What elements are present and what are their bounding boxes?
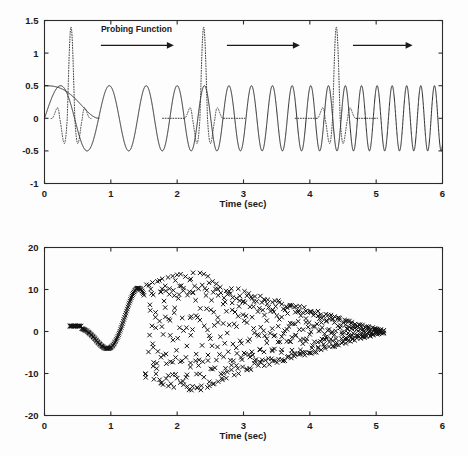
scatter-marker [175, 348, 179, 352]
bottom-y-tick-labels: -20-1001020 [25, 242, 39, 421]
top-plot-area [45, 21, 443, 184]
scatter-marker [185, 326, 189, 330]
scatter-marker [218, 335, 222, 339]
scatter-marker [235, 352, 239, 356]
scatter-marker [191, 384, 195, 388]
scatter-marker [236, 287, 240, 291]
scatter-marker [298, 338, 302, 342]
bottom-x-tick-label: 2 [175, 420, 180, 431]
scatter-marker [197, 287, 201, 291]
scatter-marker [191, 291, 195, 295]
scatter-marker [237, 304, 241, 308]
scatter-marker [327, 328, 331, 332]
scatter-marker [198, 318, 202, 322]
scatter-marker [306, 325, 310, 329]
scatter-marker [279, 351, 283, 355]
scatter-marker [184, 355, 188, 359]
scatter-marker [270, 327, 274, 331]
scatter-marker [155, 367, 159, 371]
scatter-marker [202, 375, 206, 379]
scatter-marker [259, 325, 263, 329]
scatter-marker [290, 348, 294, 352]
scatter-marker [144, 376, 148, 380]
scatter-marker [162, 299, 166, 303]
top-y-tick-label: 1.5 [25, 15, 39, 26]
chirp-signal-curve [45, 86, 443, 151]
scatter-marker [150, 324, 154, 328]
scatter-marker [296, 319, 300, 323]
bottom-x-tick-label: 1 [108, 420, 114, 431]
scatter-marker [230, 363, 234, 367]
scatter-marker [171, 338, 175, 342]
top-y-tick-label: -1 [30, 178, 39, 189]
scatter-marker [262, 364, 266, 368]
scatter-marker [227, 323, 231, 327]
annotation-arrow-head-3 [406, 42, 413, 49]
scatter-marker [189, 361, 193, 365]
bottom-x-tick-label: 4 [307, 420, 313, 431]
scatter-marker [194, 352, 198, 356]
scatter-marker [221, 322, 225, 326]
scatter-marker [252, 305, 256, 309]
scatter-marker [167, 292, 171, 296]
scatter-marker [189, 365, 193, 369]
top-x-tick-label: 3 [241, 188, 246, 199]
top-y-tick-label: 0 [33, 113, 38, 124]
scatter-marker [158, 319, 162, 323]
top-y-tick-label: 1 [33, 48, 39, 59]
scatter-marker [174, 356, 178, 360]
scatter-marker [198, 271, 202, 275]
scatter-marker [252, 327, 256, 331]
scatter-marker [206, 385, 210, 389]
top-x-tick-label: 4 [307, 188, 313, 199]
bottom-x-tick-label: 3 [241, 420, 246, 431]
scatter-marker [215, 358, 219, 362]
scatter-marker [280, 315, 284, 319]
probing-function-annotation: Probing Function [101, 24, 172, 34]
probe-burst-2 [184, 27, 224, 143]
scatter-marker [265, 319, 269, 323]
scatter-marker [200, 384, 204, 388]
scatter-marker [154, 315, 158, 319]
bottom-x-tick-label: 5 [374, 420, 380, 431]
top-x-tick-label: 6 [440, 188, 445, 199]
annotation-arrow-head-1 [167, 42, 174, 49]
scatter-marker [149, 287, 153, 291]
scatter-marker [173, 306, 177, 310]
scatter-marker [327, 345, 331, 349]
top-x-tick-labels: 0123456 [42, 188, 445, 199]
scatter-marker [197, 358, 201, 362]
bottom-plot-area [45, 248, 443, 416]
scatter-marker [189, 277, 193, 281]
scatter-marker [298, 304, 302, 308]
scatter-marker [172, 294, 176, 298]
scatter-marker [315, 322, 319, 326]
top-y-tick-label: 0.5 [25, 80, 39, 91]
scatter-marker [173, 279, 177, 283]
scatter-marker [197, 364, 201, 368]
scatter-marker [222, 355, 226, 359]
scatter-marker [267, 363, 271, 367]
scatter-marker [176, 297, 180, 301]
scatter-marker [215, 282, 219, 286]
bottom-chart-svg: 0123456 -20-1001020 Time (sec) [0, 228, 468, 456]
top-chart-panel: 0123456 -1-0.500.511.5 Time (sec) Probin… [0, 0, 468, 228]
scatter-marker [148, 333, 152, 337]
scatter-marker [156, 350, 160, 354]
scatter-marker [189, 333, 193, 337]
scatter-marker [253, 359, 257, 363]
scatter-marker [334, 329, 338, 333]
scatter-marker [265, 341, 269, 345]
bottom-y-tick-label: 20 [28, 242, 39, 253]
scatter-marker [176, 336, 180, 340]
probing-function-envelope [45, 86, 99, 119]
scatter-marker [193, 284, 197, 288]
scatter-marker [316, 309, 320, 313]
scatter-marker [148, 303, 152, 307]
scatter-marker [297, 328, 301, 332]
scatter-marker [200, 283, 204, 287]
scatter-marker [175, 376, 179, 380]
scatter-marker [160, 325, 164, 329]
top-y-tick-label: -0.5 [22, 145, 39, 156]
scatter-marker [216, 316, 220, 320]
